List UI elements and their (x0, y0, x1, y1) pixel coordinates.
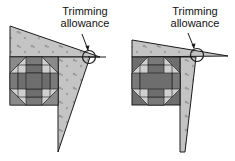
left-quilt-block (10, 57, 58, 105)
left-setting-triangle-top (10, 26, 100, 57)
right-quilt-block (132, 57, 180, 105)
right-label-line2: allowance (160, 17, 230, 29)
left-figure (10, 26, 106, 152)
right-setting-triangle-top (132, 40, 228, 57)
left-setting-triangle-side (58, 57, 90, 152)
left-label-line2: allowance (50, 17, 120, 29)
left-label: Trimming allowance (50, 5, 120, 29)
left-label-line1: Trimming (50, 5, 120, 17)
right-figure (132, 33, 228, 152)
right-label: Trimming allowance (160, 5, 230, 29)
right-label-line1: Trimming (160, 5, 230, 17)
right-setting-triangle-side (180, 57, 196, 152)
